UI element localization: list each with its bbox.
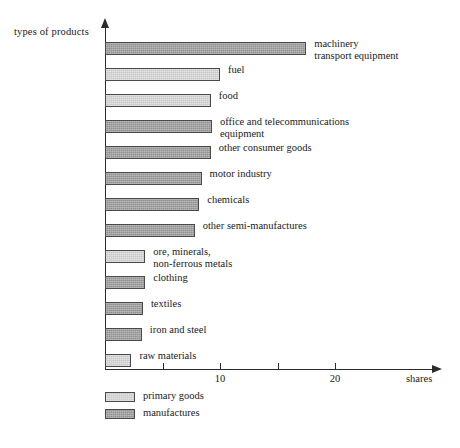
legend-label: manufactures xyxy=(143,407,200,418)
bar-category-label: ore, minerals, non-ferrous metals xyxy=(153,246,232,271)
bar xyxy=(105,120,212,133)
x-axis-line xyxy=(105,369,435,370)
bar xyxy=(105,250,145,263)
bar-category-label: other semi-manufactures xyxy=(203,220,307,232)
bar-category-label: raw materials xyxy=(139,350,196,362)
bar xyxy=(105,302,143,315)
legend-swatch xyxy=(105,409,135,419)
y-axis-title: types of products xyxy=(14,26,89,37)
bar-category-label: motor industry xyxy=(210,168,272,180)
bar-category-label: office and telecommunications equipment xyxy=(220,116,349,141)
legend-swatch xyxy=(105,392,135,402)
bar-category-label: clothing xyxy=(153,272,187,284)
bar-category-label: food xyxy=(219,90,238,102)
bar-category-label: other consumer goods xyxy=(219,142,312,154)
x-axis-tick-mark xyxy=(220,363,221,370)
x-axis-tick-label: 10 xyxy=(215,373,226,384)
bar xyxy=(105,172,202,185)
bar xyxy=(105,42,306,55)
bar-chart: types of products machinery transport eq… xyxy=(0,0,460,448)
bar xyxy=(105,328,142,341)
x-axis-arrow-icon xyxy=(432,365,442,373)
bar xyxy=(105,146,211,159)
bar xyxy=(105,94,211,107)
bar-category-label: textiles xyxy=(151,298,181,310)
y-axis-arrow-icon xyxy=(101,18,109,28)
x-axis-title: shares xyxy=(406,373,432,384)
bar-category-label: iron and steel xyxy=(150,324,207,336)
x-axis-tick-mark xyxy=(278,363,279,370)
bar xyxy=(105,276,145,289)
legend-label: primary goods xyxy=(143,390,204,401)
bar xyxy=(105,68,220,81)
bar-category-label: machinery transport equipment xyxy=(314,38,398,63)
bar xyxy=(105,354,131,367)
x-axis-tick-mark xyxy=(163,363,164,370)
x-axis-tick-label: 20 xyxy=(330,373,341,384)
bar-category-label: chemicals xyxy=(207,194,249,206)
bar-category-label: fuel xyxy=(228,64,244,76)
x-axis-tick-mark xyxy=(335,363,336,370)
bar xyxy=(105,224,195,237)
bar xyxy=(105,198,199,211)
